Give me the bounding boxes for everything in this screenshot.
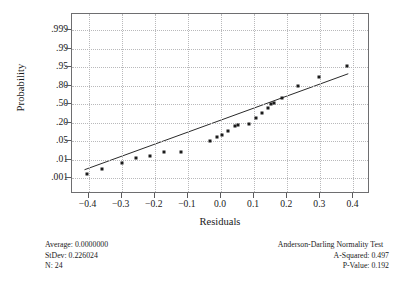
gridline-horizontal-5 — [72, 123, 368, 124]
x-tick-mark-5 — [253, 193, 254, 198]
x-tick-mark-1 — [121, 193, 122, 198]
data-point — [272, 101, 275, 104]
y-tick-label-2: .95 — [28, 61, 68, 71]
gridline-vertical-6 — [287, 14, 288, 192]
stat-stdev: StDev: 0.226024 — [45, 251, 108, 262]
x-tick-mark-2 — [154, 193, 155, 198]
data-point — [267, 107, 270, 110]
y-tick-mark-7 — [65, 159, 71, 160]
data-point — [254, 116, 257, 119]
plot-area — [71, 13, 369, 193]
data-point — [220, 133, 223, 136]
gridline-horizontal-6 — [72, 141, 368, 142]
data-point — [296, 84, 299, 87]
data-point — [209, 140, 212, 143]
y-tick-mark-6 — [65, 140, 71, 141]
y-tick-label-8: .001 — [28, 172, 68, 182]
y-axis-title: Probability — [15, 48, 26, 128]
gridline-vertical-7 — [320, 14, 321, 192]
stat-average: Average: 0.0000000 — [45, 240, 108, 251]
gridline-vertical-3 — [188, 14, 189, 192]
x-tick-mark-0 — [88, 193, 89, 198]
stat-p-value: P-Value: 0.192 — [268, 261, 393, 272]
gridline-horizontal-4 — [72, 104, 368, 105]
y-tick-label-3: .80 — [28, 80, 68, 90]
data-point — [120, 161, 123, 164]
x-tick-mark-6 — [286, 193, 287, 198]
x-tick-label-8: 0.4 — [330, 198, 374, 209]
x-axis-tick-labels: −0.4−0.3−0.2−0.10.00.10.20.30.4 — [0, 198, 395, 214]
y-tick-label-1: .99 — [28, 43, 68, 53]
y-tick-label-6: .05 — [28, 135, 68, 145]
x-axis-title: Residuals — [71, 216, 369, 227]
data-point — [345, 65, 348, 68]
gridline-horizontal-2 — [72, 67, 368, 68]
test-title: Anderson-Darling Normality Test — [268, 240, 393, 251]
y-tick-mark-1 — [65, 48, 71, 49]
summary-statistics: Average: 0.0000000 StDev: 0.226024 N: 24 — [45, 240, 108, 272]
data-point — [261, 111, 264, 114]
gridline-horizontal-1 — [72, 49, 368, 50]
x-tick-mark-3 — [187, 193, 188, 198]
gridline-vertical-4 — [221, 14, 222, 192]
y-tick-mark-2 — [65, 66, 71, 67]
y-tick-mark-8 — [65, 177, 71, 178]
y-tick-mark-5 — [65, 122, 71, 123]
data-point — [149, 154, 152, 157]
y-tick-mark-4 — [65, 103, 71, 104]
data-point — [318, 76, 321, 79]
y-tick-label-4: .50 — [28, 98, 68, 108]
data-point — [280, 97, 283, 100]
gridline-horizontal-0 — [72, 30, 368, 31]
plot-inner — [72, 14, 368, 192]
anderson-darling-test: Anderson-Darling Normality Test A-Square… — [268, 240, 393, 272]
y-tick-label-7: .01 — [28, 154, 68, 164]
x-tick-mark-7 — [319, 193, 320, 198]
gridline-vertical-1 — [122, 14, 123, 192]
data-point — [180, 150, 183, 153]
x-tick-mark-4 — [220, 193, 221, 198]
data-point — [215, 135, 218, 138]
y-tick-label-5: .20 — [28, 117, 68, 127]
stat-n: N: 24 — [45, 261, 108, 272]
data-point — [226, 129, 229, 132]
x-tick-mark-8 — [352, 193, 353, 198]
data-point — [237, 123, 240, 126]
gridline-vertical-8 — [353, 14, 354, 192]
data-point — [247, 122, 250, 125]
gridline-horizontal-3 — [72, 86, 368, 87]
y-tick-mark-3 — [65, 85, 71, 86]
data-point — [134, 157, 137, 160]
stat-a-squared: A-Squared: 0.497 — [268, 251, 393, 262]
normal-fit-line — [72, 14, 368, 192]
y-tick-mark-0 — [65, 29, 71, 30]
y-tick-label-0: .999 — [28, 24, 68, 34]
normal-probability-plot: Probability .999.99.95.80.50.20.05.01.00… — [0, 0, 395, 284]
data-point — [163, 150, 166, 153]
gridline-vertical-2 — [155, 14, 156, 192]
gridline-horizontal-8 — [72, 178, 368, 179]
gridline-vertical-5 — [254, 14, 255, 192]
data-point — [85, 172, 88, 175]
data-point — [101, 167, 104, 170]
gridline-vertical-0 — [89, 14, 90, 192]
gridline-horizontal-7 — [72, 160, 368, 161]
